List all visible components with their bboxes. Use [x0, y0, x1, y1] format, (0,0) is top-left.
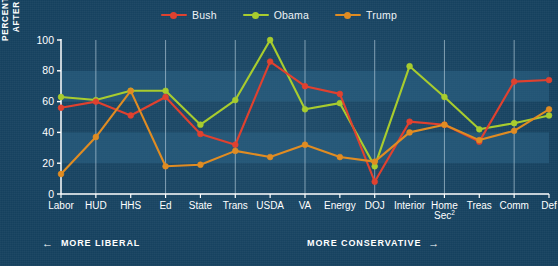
data-point[interactable]	[442, 94, 448, 100]
x-axis-label: Treas	[467, 200, 492, 211]
x-axis-label: HHS	[120, 200, 141, 211]
data-point[interactable]	[58, 171, 64, 177]
data-point[interactable]	[476, 126, 482, 132]
arrow-left-icon: ←	[42, 239, 54, 248]
y-tick-label: 40	[42, 126, 54, 138]
data-point[interactable]	[267, 37, 273, 43]
data-point[interactable]	[302, 142, 308, 148]
data-point[interactable]	[163, 163, 169, 169]
ideology-axis-captions: ← MORE LIBERAL MORE CONSERVATIVE →	[0, 238, 558, 252]
data-point[interactable]	[93, 134, 99, 140]
legend-label-obama: Obama	[274, 9, 309, 21]
x-axis-label: USDA	[256, 200, 284, 211]
data-point[interactable]	[407, 130, 413, 136]
data-point[interactable]	[198, 122, 204, 128]
y-axis-title-line-1: PERCENTAGE FILLED	[1, 0, 12, 66]
data-point[interactable]	[407, 119, 413, 125]
data-point[interactable]	[163, 88, 169, 94]
x-axis-label: Def	[541, 200, 557, 211]
data-point[interactable]	[546, 106, 552, 112]
data-point[interactable]	[511, 120, 517, 126]
legend-item-obama[interactable]: Obama	[243, 9, 309, 21]
data-point[interactable]	[267, 59, 273, 65]
data-point[interactable]	[442, 122, 448, 128]
legend-marker-bush	[161, 11, 187, 20]
y-tick-label: 0	[48, 188, 54, 200]
x-axis-label: Comm	[499, 200, 528, 211]
y-tick-label: 60	[42, 95, 54, 107]
data-point[interactable]	[546, 77, 552, 83]
legend-item-trump[interactable]: Trump	[335, 9, 397, 21]
data-point[interactable]	[302, 83, 308, 89]
x-axis-label: VA	[299, 200, 312, 211]
legend-marker-trump	[335, 11, 361, 20]
data-point[interactable]	[232, 148, 238, 154]
data-point[interactable]	[407, 63, 413, 69]
x-axis-label: Ed	[159, 200, 171, 211]
x-axis-label: Energy	[324, 200, 356, 211]
y-axis-ticks: 020406080100	[36, 34, 61, 200]
more-liberal-caption: ← MORE LIBERAL	[42, 238, 140, 248]
data-point[interactable]	[232, 142, 238, 148]
more-conservative-label: MORE CONSERVATIVE	[307, 238, 421, 248]
y-tick-label: 20	[42, 157, 54, 169]
data-point[interactable]	[267, 154, 273, 160]
data-point[interactable]	[232, 97, 238, 103]
vertical-gridlines	[96, 40, 514, 194]
plot-area: 020406080100 LaborHUDHHSEdStateTransUSDA…	[0, 0, 558, 266]
data-point[interactable]	[337, 91, 343, 97]
data-point[interactable]	[58, 105, 64, 111]
x-axis-labels: LaborHUDHHSEdStateTransUSDAVAEnergyDOJIn…	[48, 200, 557, 221]
data-point[interactable]	[198, 131, 204, 137]
data-point[interactable]	[511, 79, 517, 85]
x-axis-label-line2: Sec2	[434, 209, 455, 221]
x-axis-label: Trans	[223, 200, 248, 211]
y-tick-label: 100	[36, 34, 54, 46]
legend-item-bush[interactable]: Bush	[161, 9, 217, 21]
y-axis-title: PERCENTAGE FILLED AFTER 7 MONTHS	[1, 0, 23, 66]
data-point[interactable]	[546, 113, 552, 119]
data-point[interactable]	[372, 179, 378, 185]
data-point[interactable]	[163, 94, 169, 100]
y-axis-title-line-2: AFTER 7 MONTHS	[12, 0, 23, 66]
data-point[interactable]	[128, 113, 134, 119]
more-conservative-caption: MORE CONSERVATIVE →	[307, 238, 440, 248]
data-point[interactable]	[511, 128, 517, 134]
x-axis-label: Labor	[48, 200, 74, 211]
data-point[interactable]	[476, 137, 482, 143]
data-point[interactable]	[93, 99, 99, 105]
data-point[interactable]	[58, 94, 64, 100]
data-point[interactable]	[372, 159, 378, 165]
data-point[interactable]	[128, 88, 134, 94]
arrow-right-icon: →	[428, 239, 440, 248]
footnote-marker: 2	[451, 209, 455, 216]
x-axis-label: State	[189, 200, 213, 211]
x-axis-label: Interior	[394, 200, 426, 211]
more-liberal-label: MORE LIBERAL	[61, 238, 140, 248]
legend-marker-obama	[243, 11, 269, 20]
line-chart: Bush Obama Trump PERCENTAGE FILLED AFTER…	[0, 0, 558, 266]
legend-label-bush: Bush	[192, 9, 217, 21]
x-axis-label: HUD	[85, 200, 107, 211]
data-point[interactable]	[302, 106, 308, 112]
data-point[interactable]	[337, 154, 343, 160]
chart-legend: Bush Obama Trump	[0, 9, 558, 21]
data-point[interactable]	[198, 162, 204, 168]
legend-label-trump: Trump	[366, 9, 397, 21]
x-axis-label: DOJ	[365, 200, 385, 211]
y-tick-label: 80	[42, 64, 54, 76]
